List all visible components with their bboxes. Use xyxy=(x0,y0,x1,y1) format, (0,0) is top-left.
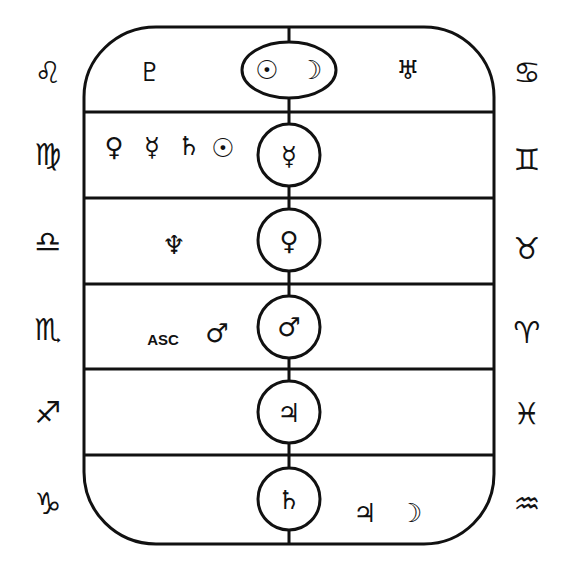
aquarius-icon: ♒ xyxy=(514,489,541,519)
moon-icon: ☽ xyxy=(299,57,322,83)
libra-icon: ♎ xyxy=(35,227,62,257)
pluto-icon: ♇ xyxy=(138,59,161,85)
moon-icon: ☽ xyxy=(399,500,422,526)
virgo-icon: ♍ xyxy=(35,140,62,170)
saturn-icon: ♄ xyxy=(277,487,300,513)
sagittarius-icon: ♐ xyxy=(35,398,62,428)
venus-icon: ♀ xyxy=(104,134,123,160)
cancer-icon: ♋ xyxy=(514,58,541,88)
saturn-icon: ♄ xyxy=(177,133,200,159)
aries-icon: ♈ xyxy=(514,318,541,348)
capricorn-icon: ♑ xyxy=(35,489,62,519)
sun-icon: ☉ xyxy=(255,57,278,83)
leo-icon: ♌ xyxy=(35,58,62,88)
mercury-icon: ☿ xyxy=(281,143,297,169)
pisces-icon: ♓ xyxy=(514,399,541,429)
gemini-icon: ♊ xyxy=(514,145,541,175)
mercury-icon: ☿ xyxy=(144,134,160,160)
mars-icon: ♂ xyxy=(205,320,228,346)
uranus-icon: ♅ xyxy=(396,57,419,83)
ascendant-label: ASC xyxy=(147,332,179,347)
sun-icon: ☉ xyxy=(211,135,234,161)
jupiter-icon: ♃ xyxy=(277,400,300,426)
neptune-icon: ♆ xyxy=(162,232,185,258)
scorpio-icon: ♏ xyxy=(35,315,62,345)
jupiter-icon: ♃ xyxy=(353,500,376,526)
mars-icon: ♂ xyxy=(277,314,300,340)
taurus-icon: ♉ xyxy=(514,234,541,264)
venus-icon: ♀ xyxy=(279,228,298,254)
